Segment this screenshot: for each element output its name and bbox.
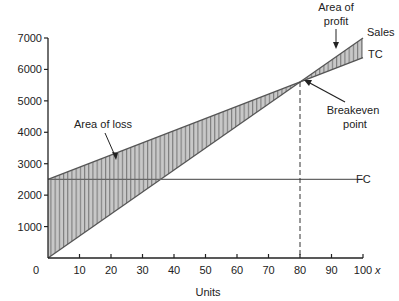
y-tick-label: 6000 (18, 63, 42, 75)
x-tick-label: 50 (199, 264, 211, 276)
y-tick-label: 3000 (18, 158, 42, 170)
x-tick-label: 70 (262, 264, 274, 276)
breakeven-chart: 1000200030004000500060007000010203040506… (0, 0, 399, 301)
x-tick-label: 40 (168, 264, 180, 276)
y-tick-label: 4000 (18, 126, 42, 138)
tc-label: TC (368, 48, 383, 60)
x-axis-symbol: x (374, 264, 381, 276)
sales-line (48, 38, 363, 258)
x-tick-label: 90 (325, 264, 337, 276)
fc-label: FC (356, 173, 371, 185)
y-tick-label: 2000 (18, 189, 42, 201)
breakeven-label: Breakeven (327, 104, 380, 116)
svg-text:profit: profit (324, 15, 348, 27)
area-of-loss-label: Area of loss (74, 118, 133, 130)
sales-label: Sales (367, 26, 395, 38)
x-tick-label: 60 (231, 264, 243, 276)
svg-text:point: point (343, 118, 367, 130)
x-tick-label: 100 (354, 264, 372, 276)
y-tick-label: 1000 (18, 221, 42, 233)
series-lines (48, 38, 363, 258)
x-axis-label: Units (195, 286, 221, 298)
y-tick-label: 5000 (18, 95, 42, 107)
x-tick-label: 30 (136, 264, 148, 276)
area-of-profit-label: Area of (318, 1, 354, 13)
x-tick-label: 80 (294, 264, 306, 276)
x-tick-label: 20 (105, 264, 117, 276)
y-tick-label: 7000 (18, 32, 42, 44)
x-tick-label: 10 (73, 264, 85, 276)
x-tick-label: 0 (33, 264, 39, 276)
